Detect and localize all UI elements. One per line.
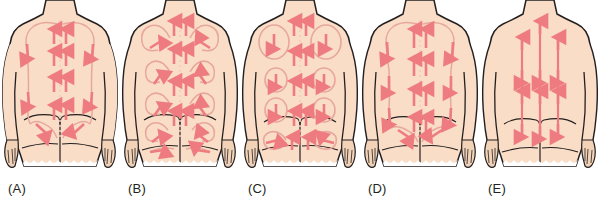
panel-e: (E) xyxy=(480,0,611,207)
torn-edge xyxy=(10,160,114,180)
torn-edge xyxy=(490,160,594,180)
hand-left xyxy=(125,140,139,168)
panel-a-illustration xyxy=(0,0,120,180)
hand-left xyxy=(365,140,379,168)
panel-b-label: (B) xyxy=(128,181,146,196)
panel-c-label: (C) xyxy=(248,181,267,196)
panel-a-label: (A) xyxy=(8,181,26,196)
panel-d-illustration xyxy=(360,0,480,180)
hand-left xyxy=(5,140,19,168)
panel-e-illustration xyxy=(480,0,600,180)
hand-right xyxy=(222,140,236,168)
hand-left xyxy=(245,140,259,168)
panel-c-illustration xyxy=(240,0,360,180)
hand-right xyxy=(102,140,116,168)
torn-edge xyxy=(370,160,474,180)
panel-b-illustration xyxy=(120,0,240,180)
panel-d: (D) xyxy=(360,0,480,207)
panel-a: (A) xyxy=(0,0,120,207)
torn-edge xyxy=(130,160,234,180)
hand-right xyxy=(582,140,596,168)
panel-c: (C) xyxy=(240,0,360,207)
torn-edge xyxy=(250,160,354,180)
hand-right xyxy=(342,140,356,168)
panel-d-label: (D) xyxy=(368,181,387,196)
panel-e-label: (E) xyxy=(488,181,506,196)
panel-b: (B) xyxy=(120,0,240,207)
hand-right xyxy=(462,140,476,168)
back-massage-stroke-figure: (A) xyxy=(0,0,611,207)
hand-left xyxy=(485,140,499,168)
